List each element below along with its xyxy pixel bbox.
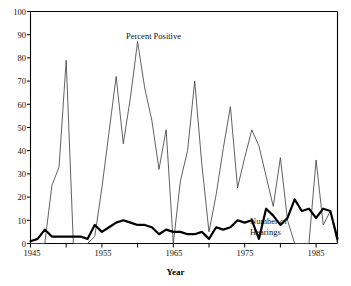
y-tick-label: 50	[2, 123, 26, 133]
y-tick-label: 30	[2, 169, 26, 179]
x-tick-label: 1955	[88, 248, 118, 258]
y-tick-label: 80	[2, 53, 26, 63]
y-tick-label: 40	[2, 146, 26, 156]
x-tick-label: 1965	[159, 248, 189, 258]
series-line-percent-positive	[31, 42, 338, 244]
chart-figure: 100 90 80 70 60 50 40 30 20 10 0 1945 19…	[0, 0, 351, 286]
x-tick-label: 1975	[230, 248, 260, 258]
y-tick-label: 10	[2, 216, 26, 226]
y-tick-label: 60	[2, 100, 26, 110]
x-axis-title: Year	[0, 267, 351, 277]
y-tick-label: 70	[2, 76, 26, 86]
series-line-number-of-hearings	[31, 199, 338, 241]
chart-plot-area	[0, 0, 351, 286]
x-tick-label: 1945	[17, 248, 47, 258]
annotation-number-of-hearings-line1: Number of	[250, 216, 287, 226]
y-tick-label: 100	[2, 7, 26, 17]
annotation-percent-positive: Percent Positive	[126, 31, 181, 41]
annotation-number-of-hearings-line2: Hearings	[250, 227, 281, 237]
y-tick-label: 90	[2, 30, 26, 40]
y-tick-label: 20	[2, 192, 26, 202]
x-tick-label: 1985	[301, 248, 331, 258]
